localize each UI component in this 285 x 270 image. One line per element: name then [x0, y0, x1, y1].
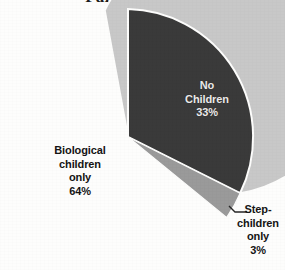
slice-label-biological-children-only: Biological children only 64%	[31, 144, 129, 198]
slice-label-step-children-only: Step- children only 3%	[231, 203, 285, 257]
pie-chart-figure: Parental Status No Children 33% Biologic…	[0, 0, 285, 270]
slice-label-no-children: No Children 33%	[168, 79, 246, 120]
